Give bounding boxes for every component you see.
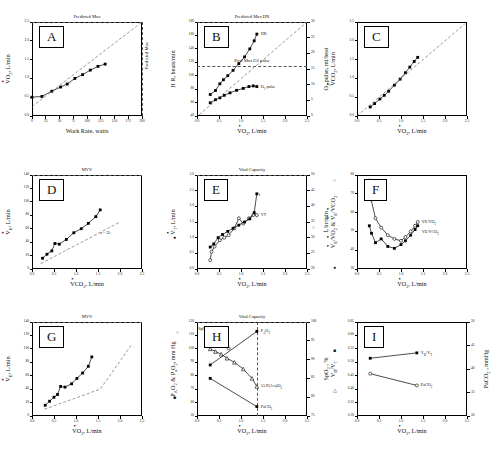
legend-marker-open-circle-h: ○	[176, 330, 179, 335]
data-point	[415, 351, 418, 354]
legend-marker-filled-circle-f: ●	[333, 265, 336, 270]
series-line	[370, 353, 417, 358]
panel-letter-e: E	[204, 179, 228, 201]
series-label: PaCO2	[421, 383, 433, 389]
panel-letter-h: H	[204, 326, 229, 348]
legend-marker-filled-square-i: ■	[333, 348, 336, 353]
legend-marker-open-triangle-i: △	[333, 388, 337, 393]
legend-marker-filled-circle-e: ●	[173, 235, 176, 240]
panel-letter-a: A	[39, 26, 64, 48]
data-point	[369, 357, 372, 360]
series-line	[370, 374, 417, 386]
panel-letter-b: B	[204, 26, 229, 48]
y-axis-title-right: PaCO2 , mmHg	[483, 322, 492, 416]
panel-letter-c: C	[364, 26, 389, 48]
series-label: VD/VT	[421, 351, 432, 357]
panel-letter-i: I	[364, 326, 384, 348]
data-point	[369, 372, 372, 375]
panel-letter-g: G	[39, 326, 64, 348]
legend-marker-open-circle-f: ○	[333, 178, 336, 183]
legend-marker-open-circle-e: ○	[312, 225, 315, 230]
y-axis-title: VD/VT	[330, 322, 339, 416]
data-point	[415, 384, 418, 387]
x-axis-title: VO2, L/min	[357, 428, 467, 437]
panel-letter-d: D	[39, 179, 64, 201]
panel-letter-f: F	[364, 179, 387, 201]
legend-marker-filled-square-h: ■	[173, 395, 176, 400]
